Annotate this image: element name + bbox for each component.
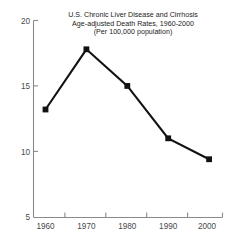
x-tick-label-1980: 1980 [118, 222, 137, 231]
y-tick-label-10: 10 [21, 148, 31, 157]
x-tick-label-1990: 1990 [159, 222, 178, 231]
x-tick-label-1970: 1970 [77, 222, 96, 231]
chart-plot: 20 15 10 5 1960 1970 1980 1990 2000 [0, 0, 233, 250]
data-point-marker-2000[interactable] [206, 156, 212, 162]
data-point-marker-1970[interactable] [84, 46, 90, 52]
x-tick-label-2000: 2000 [198, 222, 217, 231]
data-point-marker-1960[interactable] [43, 107, 49, 113]
y-tick-label-20: 20 [21, 17, 31, 26]
y-tick-label-5: 5 [25, 213, 30, 222]
data-series-cirrhosis-rate [43, 46, 212, 162]
y-tick-label-15: 15 [21, 82, 31, 91]
data-point-marker-1980[interactable] [124, 83, 130, 89]
chart-figure: U.S. Chronic Liver Disease and Cirrhosis… [0, 0, 233, 250]
data-point-marker-1990[interactable] [165, 135, 171, 141]
x-tick-label-1960: 1960 [36, 222, 55, 231]
series-line-path [46, 49, 210, 159]
